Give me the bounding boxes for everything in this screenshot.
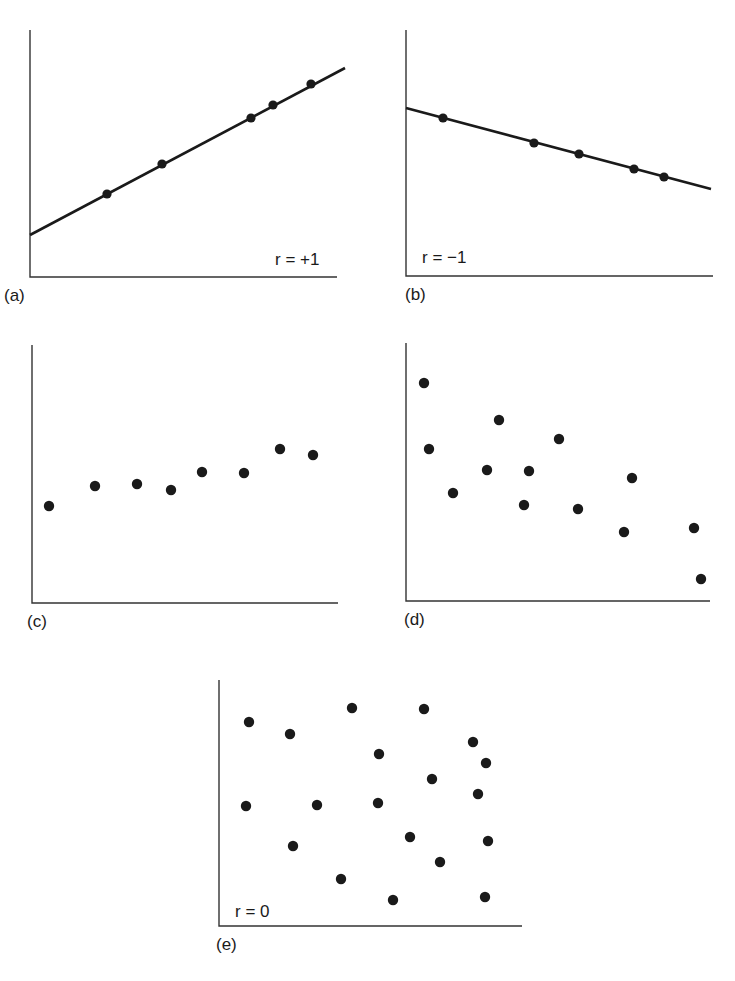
data-point [44, 501, 54, 511]
data-point [473, 789, 483, 799]
data-point [388, 895, 398, 905]
data-point [419, 378, 429, 388]
data-point [494, 415, 504, 425]
correlation-label-b: r = −1 [422, 248, 466, 268]
data-point [483, 836, 493, 846]
data-point [519, 500, 529, 510]
data-point [659, 172, 668, 181]
data-point [696, 574, 706, 584]
data-point [241, 801, 251, 811]
data-point [239, 468, 249, 478]
axes [219, 680, 522, 926]
data-point [468, 737, 478, 747]
data-point [306, 79, 315, 88]
data-point [373, 798, 383, 808]
scatter-panel-e [219, 680, 522, 926]
data-point [435, 857, 445, 867]
axes [406, 30, 713, 276]
data-point [574, 149, 583, 158]
data-point [419, 704, 429, 714]
data-point [157, 159, 166, 168]
data-point [275, 444, 285, 454]
data-point [90, 481, 100, 491]
correlation-label-e: r = 0 [235, 902, 270, 922]
data-point [573, 504, 583, 514]
data-point [268, 100, 277, 109]
panel-label-e: (e) [216, 935, 237, 955]
panel-label-b: (b) [405, 285, 426, 305]
data-point [197, 467, 207, 477]
scatter-plots [0, 0, 735, 981]
panel-label-a: (a) [4, 286, 25, 306]
data-point [619, 527, 629, 537]
data-point [374, 749, 384, 759]
correlation-figure: (a) r = +1 (b) r = −1 (c) (d) (e) r = 0 [0, 0, 735, 981]
data-point [427, 774, 437, 784]
panel-label-d: (d) [404, 610, 425, 630]
data-point [102, 189, 111, 198]
data-point [529, 138, 538, 147]
axes [406, 343, 710, 601]
scatter-panel-b [406, 30, 713, 276]
data-point [629, 164, 638, 173]
data-point [627, 473, 637, 483]
data-point [554, 434, 564, 444]
data-point [424, 444, 434, 454]
data-point [480, 892, 490, 902]
correlation-label-a: r = +1 [275, 250, 319, 270]
data-point [166, 485, 176, 495]
data-point [448, 488, 458, 498]
scatter-panel-c [32, 345, 338, 603]
data-point [438, 113, 447, 122]
data-point [482, 465, 492, 475]
scatter-panel-a [30, 30, 345, 277]
data-point [244, 717, 254, 727]
data-point [308, 450, 318, 460]
data-point [689, 523, 699, 533]
axes [32, 345, 338, 603]
data-point [336, 874, 346, 884]
data-point [524, 466, 534, 476]
scatter-panel-d [406, 343, 710, 601]
data-point [285, 729, 295, 739]
data-point [481, 758, 491, 768]
data-point [132, 479, 142, 489]
data-point [347, 703, 357, 713]
data-point [312, 800, 322, 810]
regression-line [30, 68, 345, 235]
data-point [246, 113, 255, 122]
panel-label-c: (c) [27, 612, 47, 632]
data-point [288, 841, 298, 851]
data-point [405, 832, 415, 842]
